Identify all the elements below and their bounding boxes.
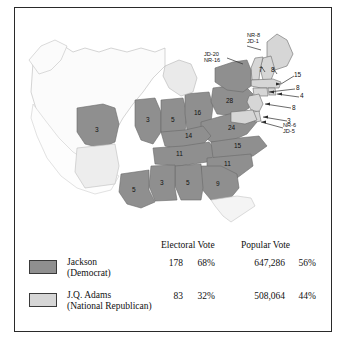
leader-label-rhode-island: 4 <box>300 92 304 99</box>
legend-label-jackson: Jackson (Democrat) <box>67 257 111 279</box>
leader-label-vermont: 7 <box>259 66 263 73</box>
leader-label-massachusetts: 15 <box>294 71 301 78</box>
state-label-louisiana: 5 <box>132 186 136 193</box>
territory-michigan <box>163 60 197 96</box>
legend-label-adams: J.Q. Adams (National Republican) <box>67 290 152 312</box>
state-label-pennsylvania: 28 <box>226 97 233 104</box>
state-label-virginia: 24 <box>228 124 235 131</box>
state-label-south-carolina: 11 <box>224 160 231 167</box>
jackson-popular-pct: 56% <box>292 258 316 268</box>
state-label-north-carolina: 15 <box>234 142 241 149</box>
split-label-maine-line1: NR-8 <box>247 32 260 38</box>
state-label-georgia: 9 <box>216 180 220 187</box>
column-header-electoral: Electoral Vote <box>161 240 215 250</box>
adams-electoral-pct: 32% <box>191 291 215 301</box>
map-frame: 3 3 5 16 28 14 24 11 15 11 9 5 3 5 7 8 1… <box>14 7 332 332</box>
legend-label-adams-line1: J.Q. Adams <box>67 290 111 300</box>
state-new-jersey <box>247 94 263 112</box>
state-label-ohio: 16 <box>194 109 201 116</box>
legend-label-jackson-line1: Jackson <box>67 257 97 267</box>
split-label-new-york: JD-20 NR-16 <box>204 51 220 64</box>
territory-arkansas <box>75 144 119 188</box>
state-louisiana <box>119 170 155 208</box>
column-header-popular: Popular Vote <box>241 240 290 250</box>
leader-label-new-jersey: 8 <box>292 104 296 111</box>
legend-swatch-adams <box>29 293 57 307</box>
split-label-maryland-line2: JD-5 <box>283 128 295 134</box>
adams-popular-votes: 508,064 <box>239 291 285 301</box>
state-label-alabama: 5 <box>186 179 190 186</box>
split-label-new-york-line2: NR-16 <box>204 57 220 63</box>
adams-electoral-votes: 83 <box>165 291 183 301</box>
state-label-kentucky: 14 <box>185 132 192 139</box>
split-label-maryland: NR-6 JD-5 <box>283 122 296 135</box>
jackson-popular-votes: 647,286 <box>239 258 285 268</box>
legend-label-adams-line2: (National Republican) <box>67 301 152 311</box>
state-label-indiana: 5 <box>171 116 175 123</box>
election-map: 3 3 5 16 28 14 24 11 15 11 9 5 3 5 7 8 1… <box>15 8 331 233</box>
legend: Electoral Vote Popular Vote Jackson (Dem… <box>15 236 331 332</box>
legend-label-jackson-line2: (Democrat) <box>67 268 111 278</box>
leader-label-connecticut: 8 <box>296 84 300 91</box>
state-label-tennessee: 11 <box>176 150 183 157</box>
leader-label-new-hampshire: 8 <box>271 66 275 73</box>
state-label-missouri: 3 <box>95 126 99 133</box>
jackson-electoral-votes: 178 <box>165 258 183 268</box>
territory-florida <box>211 196 255 222</box>
split-label-new-york-line1: JD-20 <box>204 51 219 57</box>
split-label-maine-line2: JD-1 <box>247 38 259 44</box>
jackson-electoral-pct: 68% <box>191 258 215 268</box>
split-label-maine: NR-8 JD-1 <box>247 32 260 45</box>
legend-swatch-jackson <box>29 260 57 274</box>
split-label-maryland-line1: NR-6 <box>283 122 296 128</box>
state-label-illinois: 3 <box>146 116 150 123</box>
adams-popular-pct: 44% <box>292 291 316 301</box>
state-label-mississippi: 3 <box>160 179 164 186</box>
